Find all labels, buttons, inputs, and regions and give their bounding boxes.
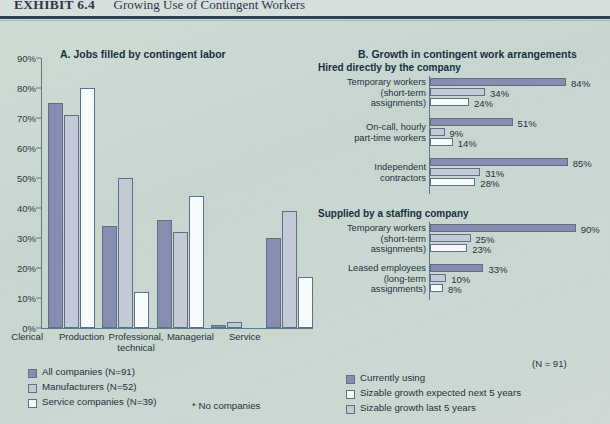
header-divider-light — [0, 20, 610, 21]
bar — [430, 224, 576, 232]
bar-value-label: 85% — [573, 158, 592, 169]
category-label: Temporary workers(short-termassignments) — [318, 223, 426, 255]
bar — [430, 128, 445, 136]
bar — [118, 178, 133, 328]
category-label-line: assignments) — [318, 98, 426, 109]
bar — [430, 178, 475, 186]
y-tick-mark — [36, 118, 41, 119]
category-label: On-call, hourlypart-time workers — [318, 122, 426, 143]
bar — [227, 322, 242, 328]
bar-value-label: 28% — [480, 178, 499, 189]
bar — [430, 264, 483, 272]
category-label: Temporary workers(short-termassignments) — [318, 77, 426, 109]
legend-swatch — [346, 405, 355, 414]
bar — [430, 88, 485, 96]
x-axis-label-line: Clerical — [11, 331, 43, 342]
category-label: Independentcontractors — [318, 162, 426, 183]
bar — [430, 168, 480, 176]
header-divider — [0, 16, 610, 19]
y-tick-label: 90% — [17, 53, 36, 64]
section-heading: Supplied by a staffing company — [318, 208, 469, 219]
y-axis-labels: 0%10%20%30%40%50%60%70%80%90% — [0, 58, 36, 328]
bar — [430, 244, 467, 252]
bar — [282, 211, 297, 328]
legend-label: Manufacturers (N=52) — [42, 381, 137, 392]
x-axis-label: Managerial — [167, 331, 214, 342]
exhibit-page: EXHIBIT 6.4 Growing Use of Contingent Wo… — [0, 0, 610, 424]
y-tick-mark — [36, 298, 41, 299]
bar-group — [96, 58, 150, 328]
y-tick-mark — [36, 238, 41, 239]
y-tick-mark — [36, 208, 41, 209]
bar — [430, 98, 469, 106]
bar-value-label: 90% — [581, 224, 600, 235]
group-axis-line — [429, 76, 430, 194]
panel-b-title: B. Growth in contingent work arrangement… — [358, 48, 577, 60]
bar-value-label: 84% — [571, 78, 590, 89]
exhibit-title: Growing Use of Contingent Workers — [114, 0, 306, 12]
legend-label: Service companies (N=39) — [42, 396, 156, 407]
bar — [430, 158, 568, 166]
panel-a-chart: 0%10%20%30%40%50%60%70%80%90% ClericalPr… — [0, 58, 330, 348]
bar — [80, 88, 95, 328]
y-tick-label: 10% — [17, 293, 36, 304]
bar — [430, 118, 513, 126]
category-label-line: Temporary workers — [318, 223, 426, 234]
bar-group — [42, 58, 96, 328]
bar — [430, 78, 566, 86]
bar-value-label: 51% — [518, 118, 537, 129]
category-label-line: (short-term — [318, 234, 426, 245]
bar — [211, 325, 226, 328]
bar — [157, 220, 172, 328]
y-tick-label: 30% — [17, 233, 36, 244]
exhibit-number: EXHIBIT 6.4 — [14, 0, 95, 12]
bar-value-label: 8% — [448, 284, 462, 295]
category-label-line: On-call, hourly — [318, 122, 426, 133]
category-label: Leased employees(long-termassignments) — [318, 263, 426, 295]
bar — [266, 238, 281, 328]
category-label-line: (long-term — [318, 274, 426, 285]
legend-swatch — [28, 399, 37, 408]
bar-value-label: 34% — [490, 88, 509, 99]
y-tick-mark — [36, 88, 41, 89]
category-label-line: Leased employees — [318, 263, 426, 274]
x-axis-label-line: Managerial — [167, 331, 214, 342]
x-axis-label-line: Professional, — [109, 331, 164, 342]
y-tick-label: 40% — [17, 203, 36, 214]
x-axis-label: Production — [59, 331, 104, 342]
y-tick-mark — [36, 148, 41, 149]
x-axis-label-line: technical — [109, 342, 164, 353]
x-axis-label-line: Service — [229, 331, 261, 342]
legend-swatch — [346, 375, 355, 384]
vertical-bars-plot — [42, 58, 314, 328]
legend-label: Currently using — [360, 372, 425, 383]
y-tick-label: 20% — [17, 263, 36, 274]
section-heading: Hired directly by the company — [318, 62, 461, 73]
x-axis-label-line: Production — [59, 331, 104, 342]
bar — [430, 274, 446, 282]
x-axis-label: Service — [229, 331, 261, 342]
bar — [430, 234, 471, 242]
category-label-line: (short-term — [318, 88, 426, 99]
bar-group — [260, 58, 314, 328]
bar — [298, 277, 313, 328]
x-axis-label: Professional,technical — [109, 331, 164, 353]
y-tick-label: 50% — [17, 173, 36, 184]
x-axis-line — [41, 328, 313, 329]
bar — [189, 196, 204, 328]
y-tick-label: 70% — [17, 113, 36, 124]
legend-swatch — [28, 384, 37, 393]
sample-size-note: (N = 91) — [532, 358, 567, 369]
group-axis-line — [429, 222, 430, 300]
bar — [64, 115, 79, 328]
bar — [430, 138, 453, 146]
bar — [48, 103, 63, 328]
y-tick-mark — [36, 268, 41, 269]
x-axis-label: Clerical — [11, 331, 43, 342]
bar — [430, 284, 443, 292]
bar-value-label: 14% — [458, 138, 477, 149]
y-tick-mark — [36, 58, 41, 59]
legend-label: Sizable growth expected next 5 years — [360, 387, 521, 398]
bar-value-label: 23% — [472, 244, 491, 255]
bar — [134, 292, 149, 328]
